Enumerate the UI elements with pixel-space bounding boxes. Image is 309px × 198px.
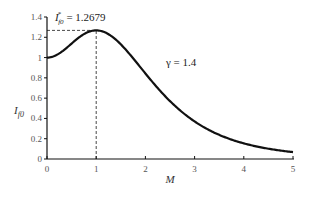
x-tick-label: 2 xyxy=(143,164,148,174)
gamma-annotation: γ = 1.4 xyxy=(165,56,197,68)
y-tick-label: 1.2 xyxy=(31,32,42,42)
y-ticks: 00.20.40.60.811.21.4 xyxy=(31,12,47,164)
y-axis-title-sub: f0 xyxy=(18,110,24,119)
x-tick-label: 1 xyxy=(94,164,99,174)
y-tick-label: 0.2 xyxy=(31,134,42,144)
x-tick-label: 5 xyxy=(291,164,296,174)
y-axis-title: If0 xyxy=(13,104,24,119)
x-axis-title: M xyxy=(164,173,175,185)
y-tick-label: 1.4 xyxy=(31,12,43,22)
x-tick-label: 3 xyxy=(192,164,197,174)
peak-annotation-sup: * xyxy=(58,10,62,18)
y-tick-label: 0 xyxy=(38,154,43,164)
peak-annotation: I*f0 = 1.2679 xyxy=(54,10,106,26)
series-line-gamma-1-4 xyxy=(47,30,293,152)
y-tick-label: 0.6 xyxy=(31,93,43,103)
x-tick-label: 0 xyxy=(45,164,50,174)
peak-annotation-value: = 1.2679 xyxy=(64,11,106,23)
x-tick-label: 4 xyxy=(242,164,247,174)
y-tick-label: 0.8 xyxy=(31,73,43,83)
chart: 012345 00.20.40.60.811.21.4 M If0 I*f0 =… xyxy=(0,0,309,198)
y-tick-label: 1 xyxy=(38,53,43,63)
y-tick-label: 0.4 xyxy=(31,113,43,123)
reference-lines xyxy=(47,30,96,159)
